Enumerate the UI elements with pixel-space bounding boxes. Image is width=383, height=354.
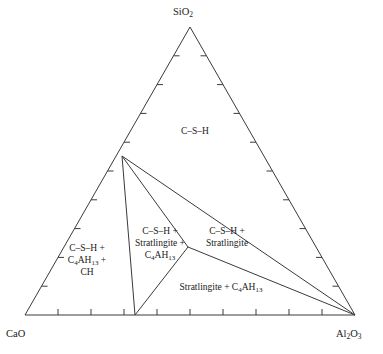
corner-label-sio2: SiO2 xyxy=(173,6,193,18)
ternary-phase-diagram: SiO2 CaO Al2O3 C–S–H C–S–H + C4AH13 + CH… xyxy=(0,0,383,354)
sub-13: 13 xyxy=(255,286,262,294)
sub-13: 13 xyxy=(168,254,175,262)
field-label-bottom-line1: Stratlingite + C4AH13 xyxy=(150,282,292,294)
field-label-left-line3: CH xyxy=(49,267,125,279)
corner-label-al2o3-text: Al xyxy=(336,328,347,339)
corner-label-cao: CaO xyxy=(6,328,25,340)
sub-4: 4 xyxy=(74,259,78,267)
tie-line-stratnode-to-al2o3 xyxy=(188,247,355,315)
field-label-stratlingite-c4ah13: Stratlingite + C4AH13 xyxy=(150,282,292,294)
field-label-csh: C–S–H xyxy=(160,126,230,138)
field-label-left-line1: C–S–H + xyxy=(49,243,125,255)
corner-label-al2o3-text2: O xyxy=(350,328,358,339)
field-label-mid-line2: Stratlingite + xyxy=(124,238,196,250)
field-label-left-line2: C4AH13 + xyxy=(49,255,125,267)
field-label-csh-line1: C–S–H xyxy=(160,126,230,138)
field-label-right-line1: C–S–H + xyxy=(190,226,264,238)
corner-label-sio2-sub: 2 xyxy=(189,10,193,19)
field-label-mid-line1: C–S–H + xyxy=(124,226,196,238)
corner-label-al2o3-sub2: 3 xyxy=(358,332,362,341)
ternary-diagram-svg xyxy=(0,0,383,354)
field-label-csh-c4ah13-ch: C–S–H + C4AH13 + CH xyxy=(49,243,125,279)
corner-label-al2o3: Al2O3 xyxy=(336,328,362,340)
corner-label-al2o3-sub1: 2 xyxy=(347,332,351,341)
field-label-csh-stratlingite: C–S–H + Stratlingite xyxy=(190,226,264,250)
corner-label-cao-text: CaO xyxy=(6,328,25,339)
field-label-right-line2: Stratlingite xyxy=(190,238,264,250)
sub-4: 4 xyxy=(151,254,155,262)
corner-label-sio2-text: SiO xyxy=(173,6,189,17)
field-label-csh-stratlingite-c4ah13: C–S–H + Stratlingite + C4AH13 xyxy=(124,226,196,262)
field-label-mid-line3: C4AH13 xyxy=(124,250,196,262)
sub-4: 4 xyxy=(238,286,242,294)
sub-13: 13 xyxy=(91,259,98,267)
